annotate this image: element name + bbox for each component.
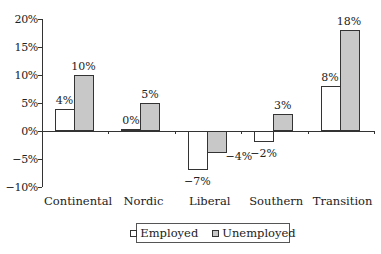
y-tick-label: −5% — [0, 154, 38, 166]
category-label-transition: Transition — [310, 194, 376, 208]
value-label: 5% — [135, 89, 165, 101]
value-label: 0% — [116, 115, 146, 127]
y-tick-label: −10% — [0, 182, 38, 194]
y-tick-label: 10% — [0, 70, 38, 82]
y-tick-label: 5% — [0, 98, 38, 110]
legend-label-unemployed: Unemployed — [222, 226, 295, 240]
value-label: −7% — [182, 176, 212, 188]
value-label: 10% — [69, 61, 99, 73]
legend-item-unemployed: Unemployed — [212, 226, 295, 240]
bar-chart: 20%15%10%5%0%−5%−10% 4%10%0%5%−7%−4%−2%3… — [0, 0, 381, 254]
unemployed-swatch — [212, 230, 219, 237]
bar-employed-liberal — [188, 131, 208, 170]
y-tick-label: 20% — [0, 14, 38, 26]
legend-item-employed: Employed — [130, 226, 198, 240]
legend: Employed Unemployed — [136, 223, 290, 243]
y-tick-label: 0% — [0, 126, 38, 138]
bar-employed-continental — [55, 109, 75, 131]
category-label-southern: Southern — [243, 194, 309, 208]
y-tick-label: 15% — [0, 42, 38, 54]
category-label-continental: Continental — [44, 194, 110, 208]
bar-employed-southern — [254, 131, 274, 142]
legend-label-employed: Employed — [140, 226, 198, 240]
bar-employed-nordic — [121, 129, 141, 131]
bar-unemployed-liberal — [207, 131, 227, 153]
bar-unemployed-southern — [273, 114, 293, 131]
value-label: −2% — [249, 148, 279, 160]
value-label: 4% — [50, 95, 80, 107]
value-label: 18% — [334, 16, 364, 28]
value-label: 3% — [268, 100, 298, 112]
bar-employed-transition — [321, 86, 341, 131]
category-label-liberal: Liberal — [177, 194, 243, 208]
value-label: 8% — [315, 72, 345, 84]
category-label-nordic: Nordic — [110, 194, 176, 208]
employed-swatch — [130, 230, 137, 237]
